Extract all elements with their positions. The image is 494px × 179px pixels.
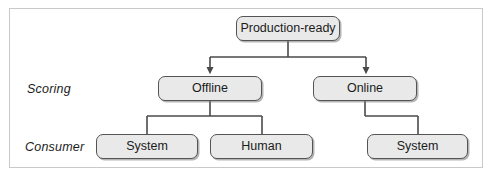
node-production-ready[interactable]: Production-ready (236, 16, 340, 41)
node-offline-label: Offline (192, 82, 228, 96)
diagram-figure: Scoring Consumer Production-ready Offlin… (0, 0, 494, 179)
node-system-online-label: System (397, 140, 439, 154)
node-system-offline-label: System (126, 140, 168, 154)
row-label-consumer: Consumer (25, 140, 84, 154)
node-human-offline-label: Human (241, 140, 281, 154)
node-human-offline[interactable]: Human (210, 134, 313, 159)
row-label-scoring: Scoring (27, 82, 71, 96)
node-offline[interactable]: Offline (158, 76, 262, 101)
node-production-ready-label: Production-ready (240, 22, 335, 36)
node-system-online[interactable]: System (367, 134, 468, 159)
node-online[interactable]: Online (313, 76, 417, 101)
node-online-label: Online (347, 82, 383, 96)
node-system-offline[interactable]: System (96, 134, 198, 159)
